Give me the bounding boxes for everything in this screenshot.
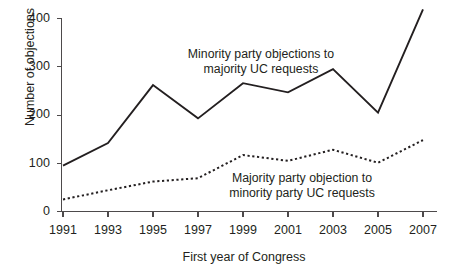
series-minority-party-objections — [63, 9, 423, 165]
annotation-majority-line1: Majority party objection to — [196, 171, 408, 186]
y-tick-label-0: 0 — [16, 204, 50, 218]
annotation-majority-series: Majority party objection to minority par… — [196, 171, 408, 200]
x-tick-label-1991: 1991 — [41, 223, 85, 237]
x-tick-label-1997: 1997 — [176, 223, 220, 237]
x-tick-label-1993: 1993 — [86, 223, 130, 237]
annotation-majority-line2: minority party UC requests — [196, 186, 408, 201]
annotation-minority-line1: Minority party objections to — [166, 47, 356, 62]
annotation-minority-series: Minority party objections to majority UC… — [166, 47, 356, 76]
x-tick-label-2007: 2007 — [401, 223, 445, 237]
y-tick-label-400: 400 — [16, 11, 50, 25]
y-axis-ticks — [57, 19, 62, 212]
x-tick-label-2001: 2001 — [266, 223, 310, 237]
annotation-minority-line2: majority UC requests — [166, 62, 356, 77]
x-tick-label-2005: 2005 — [356, 223, 400, 237]
x-tick-label-1999: 1999 — [221, 223, 265, 237]
x-tick-label-1995: 1995 — [131, 223, 175, 237]
line-chart-figure: Number of objections First year of Congr… — [0, 0, 452, 276]
x-axis-ticks — [63, 212, 423, 218]
y-tick-label-200: 200 — [16, 107, 50, 121]
x-axis-label: First year of Congress — [61, 250, 427, 264]
y-tick-label-100: 100 — [16, 156, 50, 170]
x-tick-label-2003: 2003 — [311, 223, 355, 237]
y-tick-label-300: 300 — [16, 59, 50, 73]
